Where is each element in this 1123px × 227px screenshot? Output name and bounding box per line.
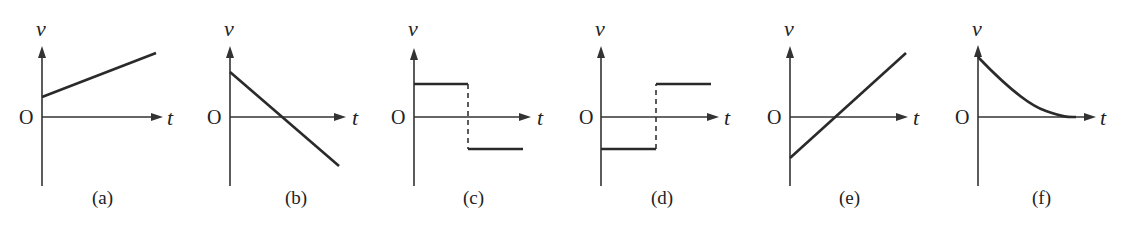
panel-caption: (b): [285, 187, 307, 209]
panel-caption: (e): [839, 187, 860, 209]
y-axis-arrow-icon: [410, 48, 418, 60]
x-axis-label: t: [1100, 105, 1107, 130]
y-axis-label: v: [408, 16, 418, 41]
origin-label: O: [391, 106, 405, 128]
panel-caption: (c): [463, 187, 484, 209]
x-axis-label: t: [352, 105, 359, 130]
y-axis-arrow-icon: [786, 46, 794, 58]
x-axis-arrow-icon: [707, 113, 719, 121]
x-axis-arrow-icon: [151, 113, 163, 121]
panel-f: v t O (f): [955, 16, 1107, 209]
velocity-line: [790, 53, 906, 158]
x-axis-arrow-icon: [519, 113, 531, 121]
x-axis-arrow-icon: [896, 113, 908, 121]
y-axis-arrow-icon: [597, 46, 605, 58]
x-axis-label: t: [167, 105, 174, 130]
y-axis-arrow-icon: [38, 46, 46, 58]
y-axis-label: v: [595, 16, 605, 41]
y-axis-label: v: [36, 16, 46, 41]
panel-caption: (a): [92, 187, 113, 209]
y-axis-arrow-icon: [226, 46, 234, 58]
x-axis-label: t: [724, 105, 731, 130]
origin-label: O: [579, 106, 593, 128]
y-axis-label: v: [784, 16, 794, 41]
panel-c: v t O (c): [391, 16, 544, 209]
origin-label: O: [955, 106, 969, 128]
y-axis-label: v: [224, 16, 234, 41]
x-axis-label: t: [913, 105, 920, 130]
origin-label: O: [19, 106, 33, 128]
x-axis-label: t: [537, 105, 544, 130]
origin-label: O: [207, 106, 221, 128]
panel-caption: (d): [651, 187, 673, 209]
velocity-time-graphs: v t O (a) v t O (b) v t O (c): [0, 0, 1123, 227]
panel-a: v t O (a): [19, 16, 174, 209]
y-axis-label: v: [972, 16, 982, 41]
x-axis-arrow-icon: [334, 113, 346, 121]
panel-d: v t O (d): [579, 16, 731, 209]
panel-e: v t O (e): [767, 16, 920, 209]
y-axis-arrow-icon: [974, 45, 982, 57]
velocity-decay-curve: [978, 57, 1076, 117]
velocity-line: [230, 72, 339, 166]
panel-caption: (f): [1032, 187, 1051, 209]
velocity-line: [42, 53, 156, 97]
x-axis-arrow-icon: [1084, 113, 1096, 121]
origin-label: O: [767, 106, 781, 128]
panel-b: v t O (b): [207, 16, 359, 209]
